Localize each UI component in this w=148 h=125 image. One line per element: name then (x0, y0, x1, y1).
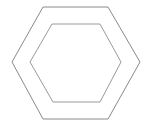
hexagon-diagram (0, 0, 148, 125)
inner-hexagon (30, 24, 121, 102)
